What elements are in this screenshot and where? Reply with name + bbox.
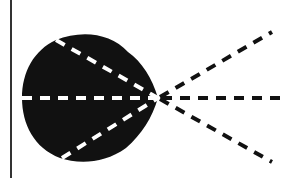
outer-ray-lower bbox=[160, 99, 272, 162]
outer-rays bbox=[160, 32, 284, 162]
outer-ray-upper bbox=[160, 32, 272, 97]
diagram-svg bbox=[0, 0, 284, 178]
diagram-canvas bbox=[0, 0, 284, 178]
